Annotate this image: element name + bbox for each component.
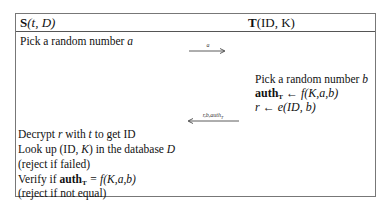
tag-pick-b: Pick a random number b xyxy=(255,72,368,86)
server-lookup: Look up (ID, K) in the database D xyxy=(18,142,175,156)
protocol-diagram: S(t, D) T(ID, K) Pick a random number a … xyxy=(15,13,376,197)
header-row: S(t, D) T(ID, K) xyxy=(16,14,375,32)
tag-title: T(ID, K) xyxy=(248,14,295,31)
server-title: S(t, D) xyxy=(20,14,55,31)
message-arrow-right: a xyxy=(189,43,227,55)
tag-r-compute: r ← e(ID, b) xyxy=(255,100,316,114)
server-reject-not-equal: (reject if not equal) xyxy=(18,186,106,200)
server-reject-failed: (reject if failed) xyxy=(18,157,90,171)
message-arrow-left: r,b,authT xyxy=(187,113,239,125)
arrow-left-icon xyxy=(187,118,239,124)
server-pick-a: Pick a random number a xyxy=(20,34,133,48)
arrow-right-icon xyxy=(189,48,227,54)
server-decrypt: Decrypt r with t to get ID xyxy=(18,127,136,141)
